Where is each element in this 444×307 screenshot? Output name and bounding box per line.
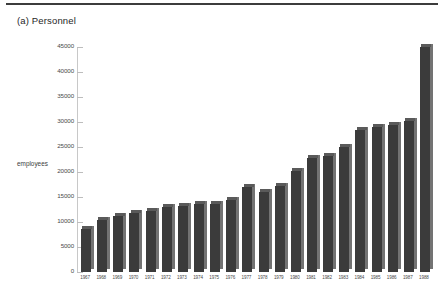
- bar-top-face: [260, 189, 270, 192]
- y-tick-label: 45000: [57, 42, 74, 49]
- bar-top-face: [308, 155, 318, 158]
- bar: [372, 127, 382, 272]
- bar-top-face: [98, 217, 108, 220]
- bar-side-face: [285, 183, 288, 269]
- y-tick-label: 40000: [57, 67, 74, 74]
- bar: [242, 187, 252, 272]
- x-tick-label: 1968: [93, 275, 109, 280]
- bar-top-face: [340, 144, 350, 147]
- bar-side-face: [236, 197, 239, 269]
- bar: [178, 206, 188, 273]
- bar-top-face: [292, 168, 302, 171]
- bar: [420, 47, 430, 272]
- bar-front-face: [355, 130, 365, 273]
- y-tick-mark: [77, 147, 83, 148]
- bar-side-face: [269, 189, 272, 269]
- y-tick-mark: [77, 97, 83, 98]
- y-tick-label: 30000: [57, 117, 74, 124]
- bar-front-face: [81, 229, 91, 273]
- y-axis-label: employees: [17, 160, 48, 167]
- bar-side-face: [349, 144, 352, 270]
- bar-front-face: [323, 156, 333, 273]
- y-tick-label: 5000: [61, 242, 74, 249]
- y-axis-line: [77, 47, 78, 272]
- bar-top-face: [324, 153, 334, 156]
- bar-side-face: [91, 226, 94, 270]
- bar-top-face: [389, 122, 399, 125]
- bar: [291, 171, 301, 272]
- bar-front-face: [420, 47, 430, 272]
- bar: [275, 186, 285, 272]
- x-tick-label: 1969: [109, 275, 125, 280]
- bar-front-face: [404, 121, 414, 272]
- bar: [146, 211, 156, 272]
- bar-front-face: [388, 125, 398, 273]
- bar-top-face: [195, 201, 205, 204]
- x-tick-label: 1978: [255, 275, 271, 280]
- bar-side-face: [188, 203, 191, 270]
- bar: [162, 207, 172, 272]
- x-tick-label: 1974: [190, 275, 206, 280]
- bar-side-face: [398, 122, 401, 270]
- bar: [404, 121, 414, 272]
- y-tick-label: 35000: [57, 92, 74, 99]
- plot-area: 4500040000350003000025000200001500010000…: [77, 47, 432, 272]
- bar-top-face: [131, 210, 141, 213]
- bar-front-face: [113, 216, 123, 273]
- bar-side-face: [204, 201, 207, 269]
- x-tick-label: 1982: [319, 275, 335, 280]
- bar-side-face: [139, 210, 142, 269]
- x-tick-label: 1972: [158, 275, 174, 280]
- x-tick-label: 1979: [271, 275, 287, 280]
- bar-top-face: [421, 44, 431, 47]
- bar-top-face: [405, 118, 415, 121]
- x-tick-label: 1986: [384, 275, 400, 280]
- bar-side-face: [156, 208, 159, 269]
- bar: [339, 147, 349, 273]
- y-tick-label: 20000: [57, 167, 74, 174]
- bar-side-face: [365, 127, 368, 270]
- bar-top-face: [357, 127, 367, 130]
- bar-top-face: [147, 208, 157, 211]
- y-tick-mark: [77, 222, 83, 223]
- bar-front-face: [146, 211, 156, 272]
- bar: [226, 200, 236, 272]
- x-tick-label: 1984: [351, 275, 367, 280]
- x-tick-label: 1977: [238, 275, 254, 280]
- bar-side-face: [301, 168, 304, 269]
- bar: [307, 158, 317, 273]
- x-tick-label: 1970: [125, 275, 141, 280]
- y-tick-mark: [77, 122, 83, 123]
- bar-top-face: [211, 201, 221, 204]
- bar-top-face: [227, 197, 237, 200]
- bar-side-face: [220, 201, 223, 270]
- x-tick-label: 1983: [335, 275, 351, 280]
- y-tick-mark: [77, 172, 83, 173]
- bar-side-face: [382, 124, 385, 269]
- y-tick-label: 10000: [57, 217, 74, 224]
- x-tick-label: 1985: [367, 275, 383, 280]
- bar-top-face: [163, 204, 173, 207]
- bar: [194, 204, 204, 272]
- bar-side-face: [107, 217, 110, 270]
- bar: [388, 125, 398, 273]
- x-tick-label: 1987: [400, 275, 416, 280]
- bar-side-face: [414, 118, 417, 269]
- bar-top-face: [276, 183, 286, 186]
- x-tick-label: 1971: [142, 275, 158, 280]
- bar-side-face: [252, 184, 255, 269]
- bar-top-face: [179, 203, 189, 206]
- bar-front-face: [307, 158, 317, 273]
- bar: [210, 204, 220, 273]
- bar-front-face: [210, 204, 220, 273]
- bar-front-face: [275, 186, 285, 272]
- x-tick-label: 1981: [303, 275, 319, 280]
- bar-top-face: [82, 226, 92, 229]
- bar-front-face: [129, 213, 139, 272]
- y-tick-mark: [77, 47, 83, 48]
- bar: [129, 213, 139, 272]
- y-tick-mark: [77, 272, 83, 273]
- bar-front-face: [372, 127, 382, 272]
- bar-side-face: [333, 153, 336, 270]
- bar: [81, 229, 91, 273]
